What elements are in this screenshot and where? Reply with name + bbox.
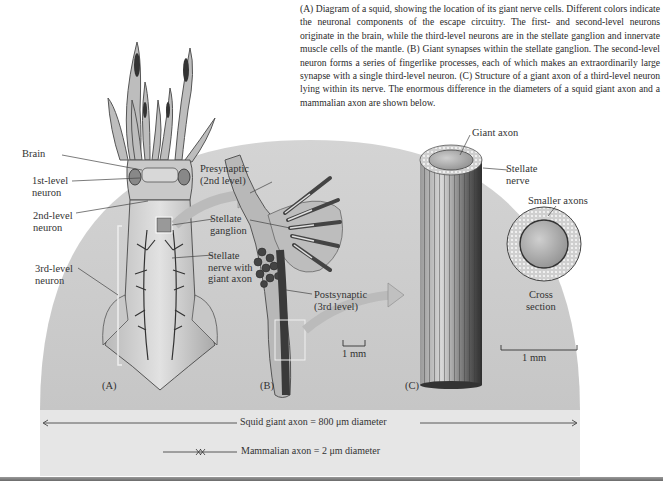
label-presynaptic: Presynaptic (2nd level) [200, 163, 249, 186]
label-stellate-ganglion: Stellate ganglion [210, 213, 247, 236]
panel-c-scale-label: 1 mm [522, 352, 546, 363]
panel-c-label: (C) [405, 380, 419, 391]
mammalian-axon-diameter: Mammalian axon = 2 μm diameter [241, 445, 380, 456]
label-stellate-nerve: Stellate nerve [506, 163, 538, 186]
panel-b-label: (B) [260, 380, 274, 391]
label-brain: Brain [22, 148, 45, 160]
panel-a-label: (A) [102, 380, 117, 391]
label-stellate-nerve-giant-axon: Stellate nerve with giant axon [208, 250, 253, 285]
label-postsynaptic: Postsynaptic (3rd level) [314, 289, 367, 312]
panel-b-scale-label: 1 mm [342, 348, 366, 359]
label-third-level-neuron: 3rd-level neuron [35, 263, 73, 286]
label-second-level-neuron: 2nd-level neuron [33, 210, 73, 233]
label-smaller-axons: Smaller axons [528, 195, 588, 207]
figure-caption: (A) Diagram of a squid, showing the loca… [300, 2, 660, 109]
label-cross-section: Cross section [526, 289, 556, 312]
label-first-level-neuron: 1st-level neuron [32, 175, 68, 198]
squid-axon-diameter: Squid giant axon = 800 μm diameter [240, 416, 387, 427]
bottom-rule [0, 477, 663, 481]
label-giant-axon: Giant axon [472, 127, 518, 139]
